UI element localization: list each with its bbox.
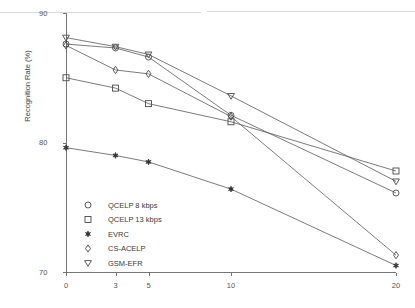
x-tick-label: 10 [227,281,235,290]
legend-item-label: CS-ACELP [108,244,146,253]
legend-item-label: GSM-EFR [108,259,143,268]
y-tick-label: 70 [39,268,47,277]
x-tick-label: 5 [146,281,150,290]
x-tick-label: 0 [64,281,68,290]
x-tick-label: 3 [113,281,117,290]
legend-item-label: QCELP 13 kbps [108,215,162,224]
y-tick-label: 80 [39,138,47,147]
y-tick-label: 90 [39,9,47,18]
chart-figure: 908070 0351020 Recognition Rate (%) QCEL… [0,0,415,308]
legend-item-label: QCELP 8 kbps [108,201,158,210]
legend-item-label: EVRC [108,230,129,239]
x-tick-label: 20 [392,281,400,290]
y-axis-title-text: Recognition Rate (%) [23,50,32,122]
line-chart-canvas: 908070 0351020 Recognition Rate (%) QCEL… [0,0,415,308]
y-axis-title: Recognition Rate (%) [23,50,32,122]
chart-background [0,0,415,308]
